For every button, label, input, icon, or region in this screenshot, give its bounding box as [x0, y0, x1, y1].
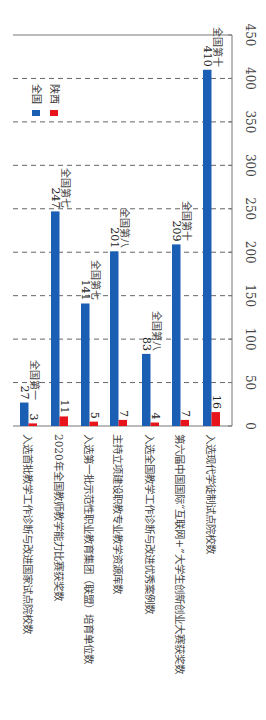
tick-label: 100: [243, 328, 257, 351]
category-label: 入选现代学徒制试点院校数: [205, 434, 217, 555]
legend-label: 全国: [31, 84, 43, 104]
value-label-shaanxi: 5: [88, 412, 101, 419]
legend-swatch: [50, 110, 58, 116]
value-label-shaanxi: 3: [27, 413, 40, 420]
tick-label: 350: [243, 110, 257, 133]
rank-annotation: 全国第十: [212, 27, 224, 67]
bar-chart: 050100150200250300350400450273全国第一入选首批教学…: [0, 0, 266, 720]
rank-annotation: 全国第八: [119, 208, 131, 248]
legend-label: 陕西: [49, 84, 61, 104]
value-label-shaanxi: 4: [149, 413, 162, 420]
value-label-shaanxi: 7: [179, 410, 192, 417]
category-label: 2020年全国教师教学能力比赛获奖数: [53, 434, 65, 602]
rank-annotation: 全国第八: [151, 311, 163, 351]
rank-annotation: 全国第十: [181, 201, 193, 241]
bar-shaanxi: [181, 420, 190, 426]
tick-label: 450: [243, 24, 257, 47]
bar-shaanxi: [29, 423, 38, 426]
bar-national: [172, 244, 181, 426]
tick-label: 250: [243, 197, 257, 220]
bar-national: [110, 251, 119, 426]
rank-annotation: 全国第七: [90, 260, 102, 300]
rank-annotation: 全国第七: [60, 168, 72, 208]
tick-label: 200: [243, 241, 257, 264]
tick-label: 50: [243, 375, 257, 390]
value-label-shaanxi: 16: [210, 395, 223, 409]
category-label: 入选首批教学工作诊断与改进国家试点院校数: [22, 434, 34, 635]
category-label: 第六届中国国际“互联网+”大学生创新创业大赛获奖数: [174, 434, 186, 675]
bar-national: [81, 303, 90, 426]
legend-swatch: [32, 110, 40, 116]
tick-label: 150: [243, 284, 257, 307]
bar-shaanxi: [60, 416, 69, 426]
category-label: 入选第一批示范性职业教育集团（联盟）培育单位数: [83, 434, 95, 665]
bar-shaanxi: [90, 422, 99, 426]
tick-label: 300: [243, 154, 257, 177]
category-label: 入选全国教学工作诊断与改进优秀案例数: [144, 434, 156, 615]
bar-shaanxi: [119, 420, 128, 426]
bar-national: [51, 211, 60, 426]
tick-label: 0: [243, 422, 257, 430]
bar-national: [203, 70, 212, 426]
category-label: 主持立项建设职教专业教学资源库数: [112, 434, 124, 595]
bar-shaanxi: [151, 423, 160, 426]
bar-shaanxi: [212, 412, 221, 426]
rank-annotation: 全国第一: [29, 360, 41, 400]
value-label-shaanxi: 7: [117, 410, 130, 417]
tick-label: 400: [243, 67, 257, 90]
value-label-shaanxi: 11: [58, 399, 71, 413]
